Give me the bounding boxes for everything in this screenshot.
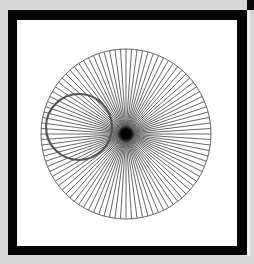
spoke-line — [50, 96, 126, 134]
figure-stage — [0, 0, 254, 264]
spoke-line — [50, 134, 126, 172]
spoke-line — [126, 74, 186, 134]
spoke-line — [88, 58, 126, 134]
spoke-line — [66, 74, 126, 134]
spoke-line — [126, 134, 202, 172]
spoke-line — [126, 96, 202, 134]
spoke-line — [126, 134, 164, 210]
spoke-line — [66, 134, 126, 194]
center-hub — [117, 125, 135, 143]
spoke-line — [126, 58, 164, 134]
radial-spoke-diagram — [0, 0, 254, 264]
spoke-line — [126, 134, 186, 194]
